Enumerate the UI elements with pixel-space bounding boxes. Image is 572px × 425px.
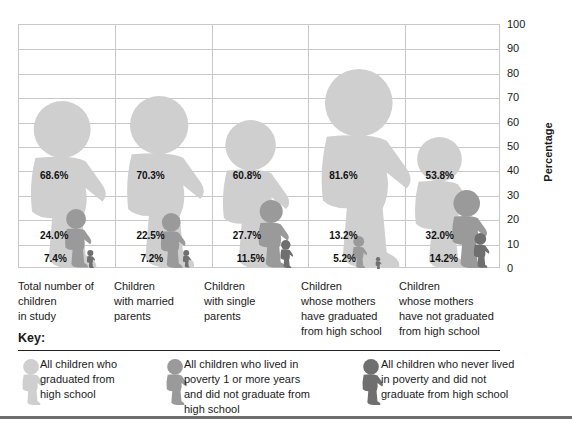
y-tick-label: 10	[507, 238, 533, 250]
category-label: Children whose mothers have graduated fr…	[301, 279, 382, 339]
value-label: 68.6%	[40, 170, 68, 181]
value-label: 7.2%	[140, 253, 163, 264]
key-item-label: All children who lived in poverty 1 or m…	[184, 357, 310, 417]
y-tick-label: 50	[507, 140, 533, 152]
y-tick-label: 0	[507, 262, 533, 274]
child-figure-series-3	[279, 240, 294, 272]
y-tick-label: 90	[507, 42, 533, 54]
value-label: 7.4%	[44, 253, 67, 264]
value-label: 22.5%	[136, 230, 164, 241]
value-label: 81.6%	[329, 170, 357, 181]
value-label: 27.7%	[233, 230, 261, 241]
category-label: Children with single parents	[204, 279, 255, 324]
value-label: 14.2%	[430, 253, 458, 264]
y-axis-label: Percentage	[542, 112, 554, 192]
value-label: 5.2%	[333, 253, 356, 264]
value-label: 24.0%	[40, 230, 68, 241]
category-label: Total number of children in study	[18, 279, 94, 324]
y-tick-label: 80	[507, 67, 533, 79]
value-label: 70.3%	[136, 170, 164, 181]
value-label: 60.8%	[233, 170, 261, 181]
category-label: Children whose mothers have not graduate…	[399, 279, 494, 339]
y-tick-label: 60	[507, 116, 533, 128]
y-tick-label: 70	[507, 91, 533, 103]
y-tick-label: 30	[507, 189, 533, 201]
key-item-label: All children who never lived in poverty …	[381, 357, 514, 402]
bottom-rule	[0, 416, 572, 419]
value-label: 11.5%	[237, 253, 265, 264]
key-divider	[18, 350, 500, 351]
child-figure-series-3	[86, 250, 95, 272]
child-figure-series-3	[472, 233, 490, 272]
category-label: Children with married parents	[114, 279, 174, 324]
value-label: 32.0%	[426, 230, 454, 241]
y-tick-label: 100	[507, 18, 533, 30]
value-label: 13.2%	[329, 230, 357, 241]
value-label: 53.8%	[426, 170, 454, 181]
key-item-label: All children who graduated from high sch…	[40, 357, 117, 402]
gridline-horizontal	[19, 74, 499, 75]
gridline-vertical	[115, 25, 116, 267]
gridline-vertical	[308, 25, 309, 267]
child-figure-series-3	[375, 255, 382, 273]
gridline-horizontal	[19, 49, 499, 50]
child-figure-series-3	[182, 250, 191, 272]
y-tick-label: 40	[507, 164, 533, 176]
key-title: Key:	[18, 331, 45, 345]
y-tick-label: 20	[507, 213, 533, 225]
gridline-vertical	[212, 25, 213, 267]
gridline-horizontal	[19, 98, 499, 99]
